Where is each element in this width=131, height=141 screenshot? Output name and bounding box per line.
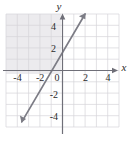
y-axis-label: y — [56, 0, 62, 12]
y-tick-label-neg2: -2 — [50, 89, 58, 100]
y-tick-label-pos4: 4 — [51, 21, 56, 32]
graph-figure: y x -4 -2 2 4 0 4 2 -2 -4 — [0, 0, 131, 141]
y-tick-label-neg4: -4 — [50, 111, 58, 122]
y-tick-label-pos2: 2 — [51, 43, 56, 54]
origin-label: 0 — [55, 72, 60, 83]
x-tick-label-neg4: -4 — [13, 72, 21, 83]
coordinate-plane: y x -4 -2 2 4 0 4 2 -2 -4 — [0, 0, 131, 141]
x-tick-label-pos4: 4 — [106, 72, 111, 83]
x-tick-label-pos2: 2 — [83, 72, 88, 83]
x-tick-label-neg2: -2 — [36, 72, 44, 83]
x-axis-label: x — [121, 61, 127, 73]
